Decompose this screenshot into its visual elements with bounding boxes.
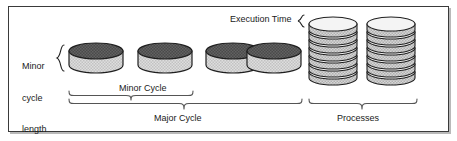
minor-cycle-length-line-3: length — [22, 124, 47, 135]
processes-label: Processes — [337, 113, 379, 124]
minor-cycle-length-label: Minor cycle length — [22, 40, 47, 141]
minor-cycle-cylinder-4 — [246, 42, 302, 78]
execution-time-brace — [296, 14, 306, 28]
processes-brace — [308, 98, 418, 110]
minor-cycle-length-line-2: cycle — [22, 93, 47, 104]
process-stack-1 — [308, 16, 358, 88]
minor-cycle-cylinder-1 — [68, 42, 124, 78]
major-cycle-brace — [68, 98, 303, 110]
minor-cycle-cylinder-2 — [137, 42, 193, 78]
minor-cycle-length-brace — [55, 44, 67, 72]
process-stack-2 — [366, 16, 416, 88]
figure-root: Minor cycle length — [0, 0, 457, 141]
major-cycle-label: Major Cycle — [154, 113, 202, 124]
execution-time-label: Execution Time — [230, 14, 292, 25]
minor-cycle-length-line-1: Minor — [22, 61, 47, 72]
